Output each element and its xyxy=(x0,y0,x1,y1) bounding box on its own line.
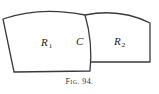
region-r1-letter: R xyxy=(41,36,48,48)
curve-c-letter: C xyxy=(76,35,83,47)
caption-number: 94. xyxy=(82,77,93,86)
caption-prefix: Fig. xyxy=(66,77,80,86)
curve-c-label: C xyxy=(76,36,83,47)
region-r2-letter: R xyxy=(114,35,121,47)
region-r1-subscript: 1 xyxy=(49,42,53,50)
figure-caption: Fig. 94. xyxy=(0,77,159,86)
region-r2-label: R2 xyxy=(114,36,125,49)
region-r1-label: R1 xyxy=(41,37,52,50)
region-r2-subscript: 2 xyxy=(122,41,126,49)
